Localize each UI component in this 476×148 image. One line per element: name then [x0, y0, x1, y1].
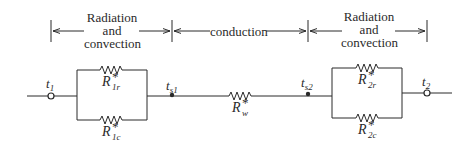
node-label-ts2: ts2 — [301, 76, 313, 94]
node-label-t1: t1 — [46, 77, 54, 95]
section-label-left-line3: convection — [84, 37, 140, 50]
section-label-right: Radiation and convection — [341, 10, 397, 49]
resistor-label-R2c: R * 2c — [358, 122, 367, 138]
resistor-label-Rw: R * w — [232, 100, 241, 116]
circuit-diagram — [0, 0, 476, 148]
section-label-middle: conduction — [210, 25, 266, 38]
resistor-label-R1r: R * 1r — [102, 74, 111, 90]
resistor-label-R1c: R * 1c — [102, 124, 111, 140]
resistor-R2r — [332, 64, 402, 72]
resistor-R2c — [332, 114, 402, 122]
node-label-ts1: ts1 — [166, 79, 178, 97]
section-label-left: Radiation and convection — [84, 11, 140, 50]
resistor-label-R2r: R * 2r — [358, 72, 367, 88]
node-label-t2: t2 — [422, 75, 430, 93]
section-label-right-line3: convection — [341, 36, 397, 49]
